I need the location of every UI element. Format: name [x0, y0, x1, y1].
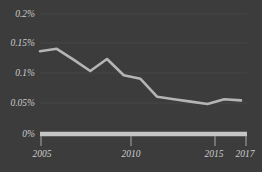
x-tick-label: 2015	[205, 149, 224, 159]
y-tick-label: 0%	[22, 129, 35, 139]
x-tick-label: 2010	[122, 149, 141, 159]
y-axis-labels: 0.2% 0.15% 0.1% 0.05% 0%	[10, 9, 35, 139]
y-tick-label: 0.05%	[10, 98, 35, 108]
y-tick-label: 0.15%	[10, 38, 35, 48]
x-axis-ticks	[41, 136, 246, 146]
y-tick-label: 0.1%	[15, 68, 35, 78]
data-series-line	[40, 49, 241, 104]
line-chart: 0.2% 0.15% 0.1% 0.05% 0% 2005 2010 2015 …	[0, 0, 262, 172]
x-axis-labels: 2005 2010 2015 2017	[33, 149, 256, 159]
y-tick-label: 0.2%	[15, 9, 35, 19]
x-tick-label: 2005	[33, 149, 52, 159]
x-tick-label: 2017	[236, 149, 256, 159]
chart-plot-area: 0.2% 0.15% 0.1% 0.05% 0% 2005 2010 2015 …	[0, 0, 262, 172]
